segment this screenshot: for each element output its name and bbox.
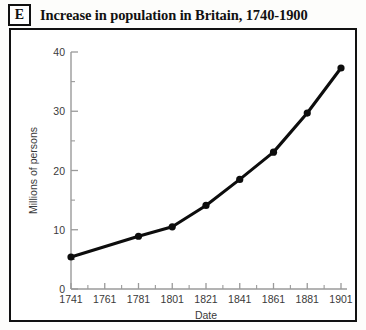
x-tick-label: 1741 [59,293,83,305]
y-tick-label: 30 [53,105,65,117]
y-tick-label: 20 [53,165,65,177]
data-point [135,233,142,240]
x-tick-label: 1841 [228,293,252,305]
data-point [169,223,176,230]
chart-canvas: 0102030401741176117811801182118411861188… [11,30,355,320]
x-tick-label: 1821 [194,293,218,305]
x-axis-title: Date [195,309,217,320]
data-point [304,109,311,116]
figure-page: E Increase in population in Britain, 174… [0,0,366,330]
figure-tag-badge: E [8,4,31,26]
x-tick-label: 1761 [93,293,117,305]
x-tick-label: 1801 [161,293,185,305]
page-title: Increase in population in Britain, 1740-… [40,7,308,24]
y-tick-label: 40 [53,46,65,58]
y-axis-title: Millions of persons [27,127,39,214]
figure-tag-label: E [15,8,24,22]
figure-title-row: E Increase in population in Britain, 174… [8,4,360,26]
data-line [71,68,341,257]
data-point [270,149,277,156]
x-tick-label: 1881 [296,293,320,305]
x-tick-label: 1781 [127,293,151,305]
data-point [202,202,209,209]
chart-frame: 0102030401741176117811801182118411861188… [9,28,357,322]
y-tick-label: 10 [53,224,65,236]
x-tick-label: 1901 [329,293,353,305]
data-point [236,176,243,183]
data-point [67,253,74,260]
line-chart: 0102030401741176117811801182118411861188… [11,30,355,320]
x-tick-label: 1861 [262,293,286,305]
data-point [337,64,344,71]
